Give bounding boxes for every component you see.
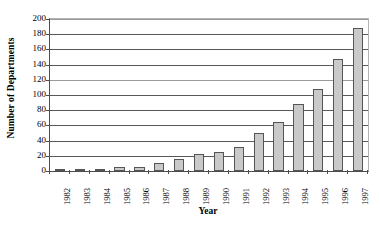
y-axis-tick-label: 80 <box>20 105 46 114</box>
x-axis-tick-label: 1995 <box>321 175 330 205</box>
x-axis-tickmark <box>129 170 130 174</box>
x-axis-tick-labels: 1982198319841985198619871988198919901991… <box>49 175 367 205</box>
bar <box>273 122 283 171</box>
x-axis-tick-label: 1991 <box>242 175 251 205</box>
x-axis-tick-label: 1989 <box>202 175 211 205</box>
x-axis-tick-label: 1988 <box>182 175 191 205</box>
x-axis-tickmark <box>168 170 169 174</box>
x-axis-tick-label: 1984 <box>103 175 112 205</box>
x-axis-tick-label: 1994 <box>301 175 310 205</box>
x-axis-tickmark <box>347 170 348 174</box>
bar <box>254 133 264 171</box>
y-axis-tick-labels: 020406080100120140160180200 <box>20 18 46 170</box>
x-axis-tickmark <box>188 170 189 174</box>
y-axis-tick-label: 200 <box>20 14 46 23</box>
bar <box>353 28 363 171</box>
y-axis-tick-label: 40 <box>20 135 46 144</box>
x-axis-tickmark <box>69 170 70 174</box>
bar <box>333 59 343 171</box>
x-axis-tickmark <box>288 170 289 174</box>
x-axis-tickmark <box>228 170 229 174</box>
y-axis-tick-label: 100 <box>20 90 46 99</box>
y-axis-tick-label: 140 <box>20 59 46 68</box>
bar <box>214 152 224 171</box>
x-axis-tick-label: 1985 <box>123 175 132 205</box>
y-axis-tick-label: 20 <box>20 150 46 159</box>
x-axis-tick-label: 1982 <box>63 175 72 205</box>
x-axis-tick-label: 1993 <box>282 175 291 205</box>
x-axis-tick-label: 1997 <box>361 175 370 205</box>
x-axis-title: Year <box>49 206 367 216</box>
bar <box>313 89 323 171</box>
y-axis-tick-label: 180 <box>20 29 46 38</box>
x-axis-tick-label: 1992 <box>262 175 271 205</box>
x-axis-tickmark <box>109 170 110 174</box>
x-axis-tickmark <box>208 170 209 174</box>
bar <box>234 147 244 171</box>
bar <box>194 154 204 171</box>
x-axis-tick-label: 1996 <box>341 175 350 205</box>
bar-series <box>50 19 368 171</box>
y-axis-tick-label: 60 <box>20 120 46 129</box>
x-axis-tick-label: 1990 <box>222 175 231 205</box>
bar <box>293 104 303 171</box>
x-axis-tick-label: 1987 <box>162 175 171 205</box>
x-axis-tickmark <box>327 170 328 174</box>
x-axis-tickmark <box>89 170 90 174</box>
x-axis-tickmark <box>307 170 308 174</box>
y-axis-tick-label: 160 <box>20 44 46 53</box>
bar-chart: Number of Departments 020406080100120140… <box>0 0 381 228</box>
x-axis-tick-label: 1986 <box>142 175 151 205</box>
y-axis-tick-label: 120 <box>20 74 46 83</box>
y-axis-title: Number of Departments <box>0 0 22 175</box>
y-axis-title-label: Number of Departments <box>6 37 16 138</box>
x-axis-tickmark <box>148 170 149 174</box>
x-axis-tickmark <box>49 170 50 174</box>
x-axis-tickmark <box>248 170 249 174</box>
x-axis-tickmark <box>268 170 269 174</box>
plot-area <box>49 18 369 172</box>
y-axis-tick-label: 0 <box>20 166 46 175</box>
x-axis-tick-label: 1983 <box>83 175 92 205</box>
x-axis-tickmark <box>367 170 368 174</box>
